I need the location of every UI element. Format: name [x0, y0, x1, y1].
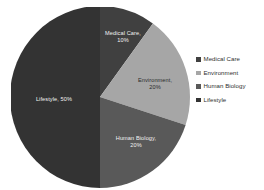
- legend-item-lifestyle[interactable]: Lifestyle: [196, 94, 264, 107]
- legend-swatch-human-biology: [196, 84, 201, 89]
- legend-label-medical-care: Medical Care: [204, 56, 241, 62]
- legend-item-human-biology[interactable]: Human Biology: [196, 80, 264, 93]
- pie-slices: [11, 7, 190, 188]
- pie-chart-plot-area: Medical Care, 10% Environment, 20% Human…: [11, 7, 191, 189]
- pie-slice-lifestyle[interactable]: [11, 7, 100, 188]
- legend-label-environment: Environment: [204, 70, 239, 76]
- legend-swatch-lifestyle: [196, 98, 201, 103]
- legend-item-medical-care[interactable]: Medical Care: [196, 53, 264, 66]
- legend-swatch-environment: [196, 71, 201, 76]
- pie-chart-svg: [11, 7, 191, 189]
- legend-swatch-medical-care: [196, 57, 201, 62]
- legend-label-lifestyle: Lifestyle: [204, 97, 227, 103]
- pie-chart-figure: Medical Care, 10% Environment, 20% Human…: [0, 0, 264, 190]
- legend-label-human-biology: Human Biology: [204, 83, 246, 89]
- legend-item-environment[interactable]: Environment: [196, 67, 264, 80]
- chart-legend: Medical Care Environment Human Biology L…: [196, 53, 264, 107]
